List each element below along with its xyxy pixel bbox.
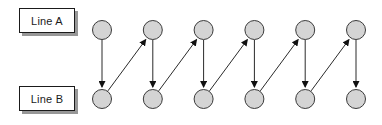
edge-B3-A4 — [210, 40, 248, 91]
node-A1 — [93, 21, 112, 40]
node-B6 — [347, 90, 366, 109]
diagram-canvas: Line A Line B — [0, 0, 382, 125]
edge-B1-A2 — [108, 40, 146, 91]
diagram-svg — [0, 0, 382, 125]
node-A5 — [296, 21, 315, 40]
edge-B5-A6 — [311, 40, 349, 91]
node-B5 — [296, 90, 315, 109]
node-A4 — [245, 21, 264, 40]
node-A2 — [143, 21, 162, 40]
node-B4 — [245, 90, 264, 109]
node-B3 — [194, 90, 213, 109]
node-A6 — [347, 21, 366, 40]
node-A3 — [194, 21, 213, 40]
edge-B2-A3 — [159, 40, 197, 91]
node-B1 — [93, 90, 112, 109]
node-B2 — [143, 90, 162, 109]
edge-B4-A5 — [260, 40, 298, 91]
